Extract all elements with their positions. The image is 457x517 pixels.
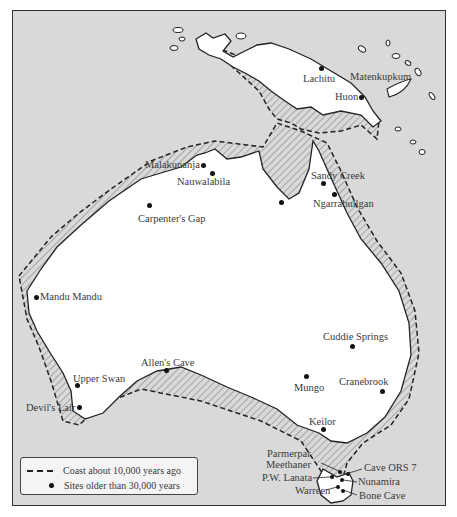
site-dot-allens-cave[interactable] — [164, 368, 169, 373]
site-label-cuddie-springs: Cuddie Springs — [323, 332, 388, 343]
site-dot-nunamira[interactable] — [340, 478, 344, 482]
site-label-malakunanja: Malakunanja — [145, 160, 200, 171]
site-dot-bone-cave[interactable] — [341, 489, 345, 493]
site-label-cave-ors7: Cave ORS 7 — [364, 463, 417, 474]
legend-item-old-coast: Coast about 10,000 years ago — [21, 465, 181, 476]
dashed-line-icon — [27, 470, 53, 472]
site-label-ngarrabullgan: Ngarrabullgan — [313, 199, 374, 210]
site-label-bone-cave: Bone Cave — [359, 491, 405, 502]
site-dot-pw-lanata[interactable] — [330, 475, 334, 479]
site-dot-parmerpar-meethaner[interactable] — [338, 470, 342, 474]
site-label-mungo: Mungo — [294, 383, 324, 394]
site-label-parmerpar: Parmerpar — [267, 449, 311, 460]
site-label-mandu-mandu: Mandu Mandu — [40, 292, 102, 303]
site-dot-mungo[interactable] — [304, 374, 309, 379]
site-dot-mandu-mandu[interactable] — [34, 295, 39, 300]
site-label-meethaner: Meethaner — [266, 460, 311, 471]
site-dot-ngarrabullgan[interactable] — [332, 192, 337, 197]
site-label-pw-lanata: P.W. Lanata — [262, 473, 312, 484]
site-dot-devils-lair[interactable] — [77, 405, 82, 410]
site-dot-gulf[interactable] — [279, 200, 284, 205]
site-label-warreen: Warreen — [295, 486, 330, 497]
site-label-nauwalabila: Nauwalabila — [177, 177, 230, 188]
site-label-allens-cave: Allen's Cave — [141, 358, 195, 369]
map-frame: Lachitu Matenkupkum Huon Malakunanja Nau… — [12, 10, 446, 506]
map-legend: Coast about 10,000 years ago Sites older… — [20, 457, 198, 495]
site-label-lachitu: Lachitu — [303, 74, 335, 85]
site-dot-warreen[interactable] — [336, 485, 340, 489]
site-label-upper-swan: Upper Swan — [73, 374, 125, 385]
site-label-devils-lair: Devil's Lair — [26, 403, 75, 414]
dot-icon — [49, 483, 54, 488]
site-dot-keilor[interactable] — [321, 427, 326, 432]
site-label-matenkupkum: Matenkupkum — [350, 72, 411, 83]
site-label-nunamira: Nunamira — [358, 477, 400, 488]
legend-label-old-coast: Coast about 10,000 years ago — [63, 465, 181, 476]
site-label-huon: Huon — [335, 92, 358, 103]
site-dot-carpenters-gap[interactable] — [147, 203, 152, 208]
site-label-carpenters-gap: Carpenter's Gap — [138, 214, 206, 225]
legend-label-sites: Sites older than 30,000 years — [64, 480, 180, 491]
site-dot-cave-ors7[interactable] — [346, 472, 350, 476]
site-dot-cuddie-springs[interactable] — [350, 344, 355, 349]
site-label-keilor: Keilor — [309, 417, 336, 428]
site-label-sandy-creek: Sandy Creek — [311, 171, 365, 182]
site-dot-cranebrook[interactable] — [380, 389, 385, 394]
legend-item-sites: Sites older than 30,000 years — [21, 480, 180, 491]
site-dot-lachitu[interactable] — [319, 66, 324, 71]
site-label-cranebrook: Cranebrook — [339, 377, 389, 388]
site-dot-huon[interactable] — [359, 95, 364, 100]
site-dot-sandy-creek[interactable] — [321, 181, 326, 186]
map-canvas — [13, 11, 446, 506]
site-dot-malakunanja[interactable] — [201, 163, 206, 168]
